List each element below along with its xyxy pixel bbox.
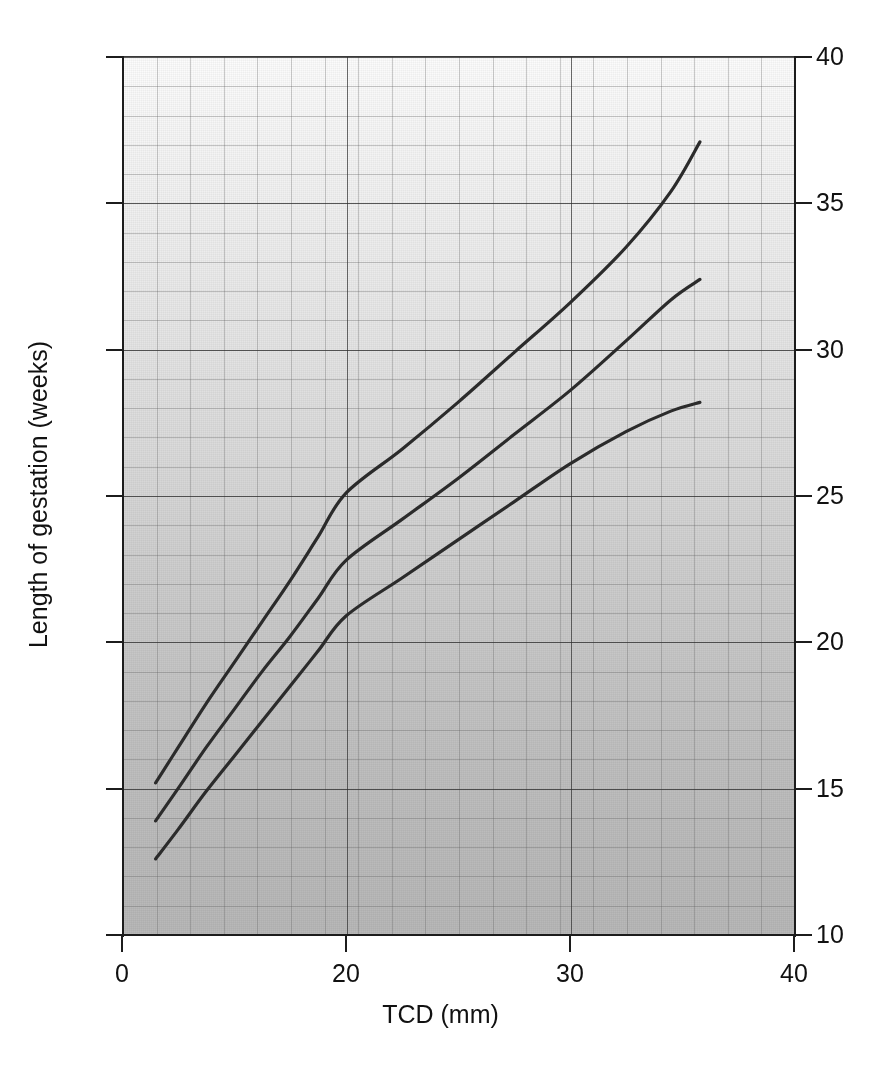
x-tick-0: [121, 935, 123, 952]
x-tick-label-30: 30: [530, 961, 610, 986]
y-tick-right-20: [795, 641, 812, 643]
y-axis-title: Length of gestation (weeks): [24, 285, 53, 705]
x-tick-30: [569, 935, 571, 952]
y-tick-label-right-40: 40: [816, 44, 844, 69]
y-tick-left-35: [106, 202, 123, 204]
axis-top-line: [123, 56, 795, 57]
y-tick-right-10: [795, 934, 812, 936]
y-tick-right-35: [795, 202, 812, 204]
curve-upper-percentile: [156, 142, 700, 783]
y-tick-left-20: [106, 641, 123, 643]
y-tick-right-30: [795, 349, 812, 351]
x-tick-20: [345, 935, 347, 952]
x-tick-40: [793, 935, 795, 952]
y-tick-label-right-10: 10: [816, 922, 844, 947]
y-tick-left-15: [106, 788, 123, 790]
y-tick-label-right-25: 25: [816, 483, 844, 508]
curve-median: [156, 279, 700, 820]
axis-bottom-line: [122, 934, 796, 936]
x-tick-label-40: 40: [754, 961, 834, 986]
y-tick-right-40: [795, 56, 812, 58]
y-tick-label-right-35: 35: [816, 190, 844, 215]
y-tick-right-15: [795, 788, 812, 790]
chart-figure: 40403535303025252020151510100203040 TCD …: [0, 0, 881, 1082]
y-tick-left-25: [106, 495, 123, 497]
y-tick-left-40: [106, 56, 123, 58]
x-axis-title: TCD (mm): [0, 1000, 881, 1029]
plot-area: [123, 57, 795, 935]
x-tick-label-0: 0: [82, 961, 162, 986]
y-tick-label-right-30: 30: [816, 337, 844, 362]
x-tick-label-20: 20: [306, 961, 386, 986]
curve-lower-percentile: [156, 402, 700, 859]
y-tick-label-right-15: 15: [816, 776, 844, 801]
y-tick-right-25: [795, 495, 812, 497]
y-tick-left-30: [106, 349, 123, 351]
y-tick-label-right-20: 20: [816, 629, 844, 654]
curve-layer: [123, 57, 795, 935]
